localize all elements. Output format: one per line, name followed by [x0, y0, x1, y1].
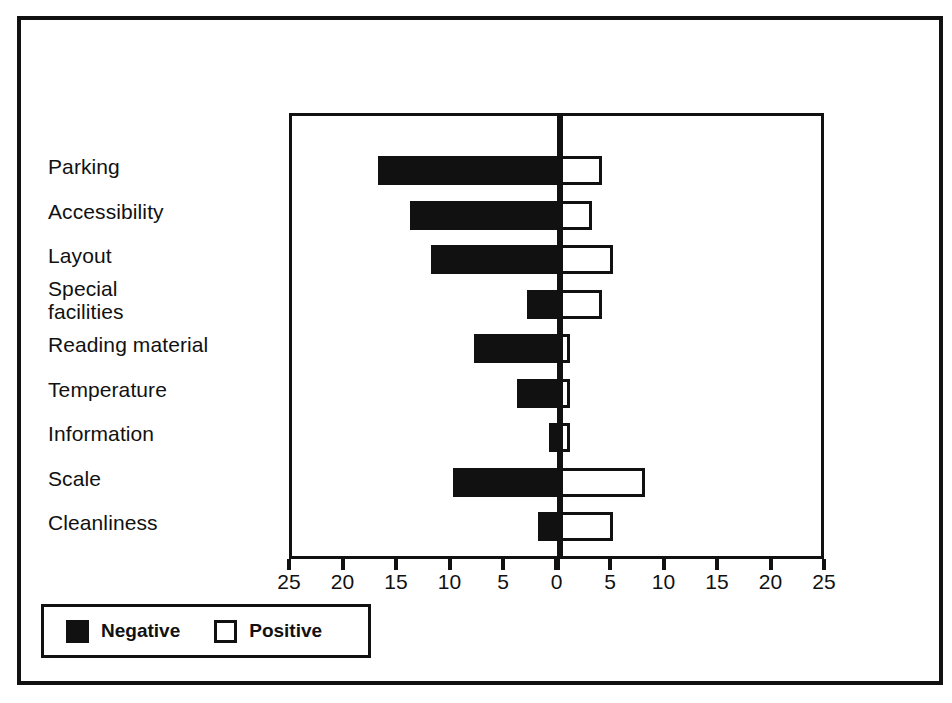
category-row: Cleanliness [48, 508, 288, 540]
axis-tick [554, 559, 560, 570]
legend-label: Positive [249, 620, 322, 642]
category-row: Temperature [48, 374, 288, 406]
axis-tick [501, 559, 505, 570]
axis-tick [448, 559, 452, 570]
axis-tick-label: 15 [697, 570, 737, 594]
axis-tick-label: 25 [804, 570, 844, 594]
bar-negative [453, 468, 560, 497]
axis-tick [394, 559, 398, 570]
category-label-column: ParkingAccessibilityLayoutSpecial facili… [48, 150, 288, 545]
bar-positive [560, 245, 614, 274]
axis-tick [822, 559, 826, 570]
axis-tick-label: 0 [537, 570, 577, 594]
category-row: Special facilities [48, 285, 288, 317]
axis-tick [769, 559, 773, 570]
axis-tick-label: 20 [751, 570, 791, 594]
axis-tick [287, 559, 291, 570]
category-label: Parking [48, 156, 120, 179]
chart-legend: NegativePositive [41, 604, 371, 658]
category-label: Cleanliness [48, 512, 158, 535]
axis-tick [662, 559, 666, 570]
bar-positive [560, 156, 603, 185]
bar-negative [474, 334, 560, 363]
axis-tick-label: 10 [644, 570, 684, 594]
bar-positive [560, 201, 592, 230]
bar-positive [560, 512, 614, 541]
category-label: Reading material [48, 334, 208, 357]
bar-negative [527, 290, 559, 319]
plot-area [289, 113, 824, 559]
axis-tick [608, 559, 612, 570]
category-row: Information [48, 419, 288, 451]
filled-square-icon [66, 620, 89, 643]
bar-negative [378, 156, 560, 185]
axis-tick-label: 25 [269, 570, 309, 594]
axis-tick-label: 10 [430, 570, 470, 594]
chart-figure: ParkingAccessibilityLayoutSpecial facili… [0, 0, 952, 703]
category-row: Scale [48, 463, 288, 495]
axis-tick-label: 5 [483, 570, 523, 594]
legend-entry: Positive [214, 620, 322, 643]
hollow-square-icon [214, 620, 237, 643]
legend-entry: Negative [66, 620, 180, 643]
bar-negative [431, 245, 559, 274]
axis-tick [715, 559, 719, 570]
category-label: Scale [48, 468, 101, 491]
axis-tick-label: 15 [376, 570, 416, 594]
category-row: Reading material [48, 330, 288, 362]
category-label: Information [48, 423, 154, 446]
category-label: Layout [48, 245, 112, 268]
category-row: Parking [48, 152, 288, 184]
bar-negative [517, 379, 560, 408]
bar-positive [560, 468, 646, 497]
x-axis-tick-labels: 2520151050510152025 [289, 570, 824, 600]
bar-negative [410, 201, 560, 230]
category-label: Temperature [48, 379, 167, 402]
category-row: Accessibility [48, 196, 288, 228]
zero-axis-line [557, 116, 563, 556]
bar-positive [560, 290, 603, 319]
category-label: Special facilities [48, 278, 124, 323]
legend-label: Negative [101, 620, 180, 642]
axis-tick [341, 559, 345, 570]
category-row: Layout [48, 241, 288, 273]
category-label: Accessibility [48, 201, 164, 224]
axis-tick-label: 5 [590, 570, 630, 594]
axis-tick-label: 20 [323, 570, 363, 594]
bars-container [292, 116, 821, 556]
